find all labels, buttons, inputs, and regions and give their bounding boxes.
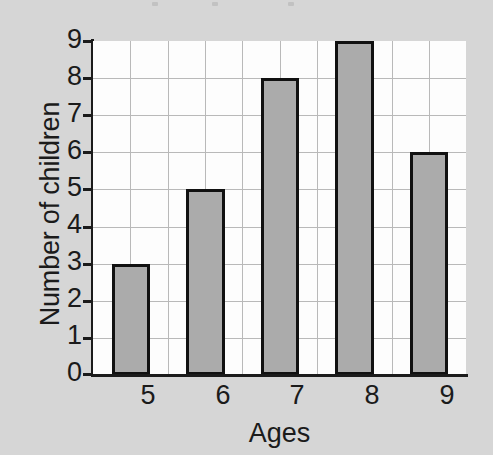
artifact-mark <box>288 2 294 6</box>
y-tick-label-2: 2 <box>56 285 82 312</box>
bar-age-8[interactable] <box>335 41 373 375</box>
y-tick-label-1: 1 <box>56 322 82 349</box>
x-tick-label-9: 9 <box>427 382 467 409</box>
plot-area <box>93 41 466 375</box>
y-tick-label-4: 4 <box>56 211 82 238</box>
y-tick-label-8: 8 <box>56 63 82 90</box>
y-tick-mark-5 <box>83 188 92 191</box>
y-tick-label-3: 3 <box>56 248 82 275</box>
y-tick-label-0: 0 <box>56 359 82 386</box>
y-tick-mark-2 <box>83 300 92 303</box>
y-axis-tick-labels: 9 8 7 6 5 4 3 2 1 0 <box>52 0 82 455</box>
y-tick-mark-7 <box>83 114 92 117</box>
gridline-vertical-6 <box>317 41 318 375</box>
y-tick-mark-3 <box>83 263 92 266</box>
bar-chart-figure: Number of children 9 8 7 6 5 4 3 2 1 0 <box>0 0 493 455</box>
bar-age-9[interactable] <box>410 152 448 375</box>
x-tick-label-7: 7 <box>277 382 317 409</box>
y-tick-label-9: 9 <box>56 26 82 53</box>
artifact-mark <box>212 2 218 6</box>
bar-age-5[interactable] <box>112 264 150 375</box>
y-tick-mark-4 <box>83 226 92 229</box>
x-tick-label-5: 5 <box>128 382 168 409</box>
gridline-vertical-4 <box>242 41 243 375</box>
y-tick-mark-1 <box>83 337 92 340</box>
y-tick-label-5: 5 <box>56 174 82 201</box>
gridline-vertical-2 <box>168 41 169 375</box>
x-tick-label-8: 8 <box>352 382 392 409</box>
x-axis-line <box>91 374 468 377</box>
y-tick-mark-9 <box>83 40 92 43</box>
x-axis-title: Ages <box>93 418 466 449</box>
y-tick-label-6: 6 <box>56 137 82 164</box>
x-tick-label-6: 6 <box>203 382 243 409</box>
artifact-mark <box>152 2 158 6</box>
bar-age-7[interactable] <box>261 78 299 375</box>
gridline-vertical-8 <box>392 41 393 375</box>
y-tick-mark-6 <box>83 151 92 154</box>
y-tick-mark-8 <box>83 77 92 80</box>
bar-age-6[interactable] <box>186 189 224 375</box>
y-tick-label-7: 7 <box>56 100 82 127</box>
